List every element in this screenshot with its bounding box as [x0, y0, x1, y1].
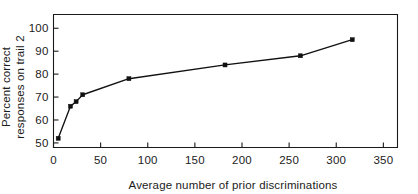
- x-tick-label-250: 250: [279, 154, 299, 166]
- axes-group: [54, 15, 398, 148]
- x-tick-label-200: 200: [232, 154, 252, 166]
- y-axis-ticks: [54, 28, 59, 143]
- data-point-2: [74, 100, 78, 104]
- y-tick-label-100: 100: [29, 22, 49, 34]
- data-point-1: [68, 104, 72, 108]
- data-point-0: [56, 136, 60, 140]
- chart-figure: 5060708090100 050100150200250300350 Aver…: [0, 0, 418, 194]
- x-tick-label-350: 350: [373, 154, 393, 166]
- x-axis-title: Average number of prior discriminations: [129, 179, 338, 191]
- data-point-6: [298, 54, 302, 58]
- data-point-3: [81, 93, 85, 97]
- x-axis-tick-labels: 050100150200250300350: [50, 154, 393, 166]
- data-series-group: [56, 38, 354, 141]
- x-axis-ticks: [54, 143, 384, 148]
- y-tick-label-50: 50: [35, 137, 48, 149]
- y-axis-line: [54, 15, 398, 148]
- y-axis-title: Percent correct responses on trail 2: [0, 35, 26, 138]
- x-tick-label-0: 0: [50, 154, 57, 166]
- data-point-5: [223, 63, 227, 67]
- y-axis-tick-labels: 5060708090100: [29, 22, 49, 149]
- x-axis-line: [54, 15, 398, 148]
- x-tick-label-100: 100: [138, 154, 158, 166]
- data-point-4: [127, 77, 131, 81]
- y-tick-label-60: 60: [35, 114, 48, 126]
- x-tick-label-150: 150: [185, 154, 205, 166]
- y-axis-title-line1: Percent correct: [0, 46, 12, 127]
- series-line: [58, 40, 352, 139]
- y-tick-label-70: 70: [35, 91, 48, 103]
- line-chart-svg: 5060708090100 050100150200250300350 Aver…: [0, 0, 418, 194]
- x-tick-label-50: 50: [94, 154, 107, 166]
- y-tick-label-90: 90: [35, 45, 48, 57]
- y-axis-title-line2: responses on trail 2: [14, 35, 26, 138]
- data-point-7: [350, 38, 354, 42]
- y-tick-label-80: 80: [35, 68, 48, 80]
- x-tick-label-300: 300: [326, 154, 346, 166]
